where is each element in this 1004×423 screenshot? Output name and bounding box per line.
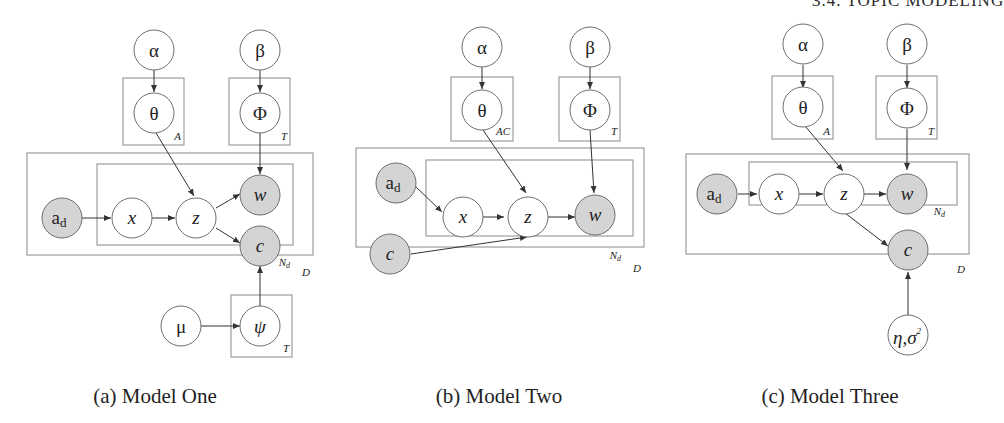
label-phi: Φ (253, 103, 267, 124)
plate-label-outer: D (301, 266, 310, 278)
label-alpha: α (477, 37, 487, 58)
plate-label-theta: A (822, 125, 830, 137)
label-x: x (127, 207, 137, 228)
label-alpha: α (798, 34, 808, 55)
plate-label-phi: T (281, 130, 288, 142)
label-c: c (904, 239, 913, 260)
plate-label-psi: T (283, 342, 290, 354)
label-x: x (774, 183, 784, 204)
label-x: x (458, 206, 468, 227)
label-beta: β (255, 40, 265, 61)
label-w: w (254, 184, 267, 205)
label-psi: ψ (254, 316, 267, 337)
plate-label-outer: D (956, 263, 965, 275)
plate-label-outer: D (632, 262, 641, 274)
label-phi: Φ (583, 100, 597, 121)
label-theta: θ (798, 97, 807, 118)
label-mu: μ (176, 316, 186, 337)
model-one-diagram: α β θ Φ ad x z w c μ ψ A T Nd D T (27, 30, 313, 357)
label-beta: β (902, 34, 912, 55)
caption-model-one: (a) Model One (93, 384, 217, 409)
plate-label-inner: Nd (278, 256, 291, 270)
plate-label-theta: A (173, 130, 181, 142)
label-z: z (523, 206, 532, 227)
label-w: w (901, 183, 914, 204)
plate-label-inner: Nd (609, 249, 622, 263)
label-alpha: α (149, 40, 159, 61)
label-c: c (386, 243, 395, 264)
label-beta: β (585, 37, 595, 58)
caption-model-three: (c) Model Three (761, 384, 898, 409)
plate-label-phi: T (928, 125, 935, 137)
model-three-diagram: α β θ Φ ad x z w c η,σ2 A T Nd D (686, 24, 969, 355)
model-two-diagram: α β θ Φ ad x z w c AC T Nd D (356, 27, 644, 274)
plate-label-theta: AC (495, 125, 511, 137)
label-theta: θ (477, 100, 486, 121)
label-theta: θ (149, 103, 158, 124)
plate-label-phi: T (611, 125, 618, 137)
label-z: z (191, 207, 200, 228)
label-z: z (839, 183, 848, 204)
label-c: c (256, 235, 265, 256)
label-phi: Φ (900, 98, 914, 119)
plate-label-inner: Nd (933, 205, 946, 219)
caption-model-two: (b) Model Two (436, 384, 562, 409)
label-w: w (589, 204, 602, 225)
